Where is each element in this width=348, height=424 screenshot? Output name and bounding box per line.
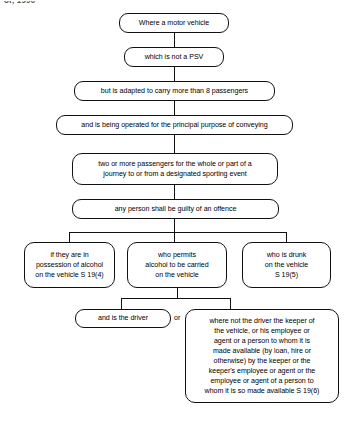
- connector-n5-to-n6: [174, 185, 175, 199]
- page-header-fragment: of, 1990: [4, 0, 35, 5]
- flowchart-canvas: of, 1990 Where a motor vehicle which is …: [0, 0, 348, 424]
- node-text: if they are in possession of alcohol on …: [29, 250, 110, 280]
- node-text: who is drunk on the vehicle S 19(5): [247, 250, 326, 280]
- connector-branch-left: [69, 232, 70, 243]
- node-text: where not the driver the keeper of the v…: [191, 316, 333, 397]
- connector-two-way-bus: [121, 298, 231, 299]
- connector-n8-stem: [177, 288, 178, 298]
- node-permits-alcohol-to-be-carried: who permits alcohol to be carried on the…: [127, 242, 227, 288]
- node-text-line-3: on the vehicle S 19(4): [29, 270, 110, 280]
- connector-three-way-bus: [69, 232, 287, 233]
- node-text: and is being operated for the principal …: [61, 120, 288, 130]
- node-text: two or more passengers for the whole or …: [77, 159, 273, 179]
- node-and-is-the-driver: and is the driver: [75, 309, 171, 328]
- node-two-or-more-passengers: two or more passengers for the whole or …: [72, 153, 278, 185]
- node-text-line-2: the vehicle, or his employee or: [191, 326, 333, 336]
- node-text: who permits alcohol to be carried on the…: [132, 250, 222, 280]
- node-text-line-1: where not the driver the keeper of: [191, 316, 333, 326]
- node-text-line-4: made available (by loan, hire or: [191, 346, 333, 356]
- node-text: which is not a PSV: [129, 52, 219, 62]
- connector-n1-to-n2: [174, 33, 175, 47]
- node-who-is-drunk-s19-5: who is drunk on the vehicle S 19(5): [242, 242, 331, 288]
- connector-n6-stem: [174, 219, 175, 232]
- node-text-line-5: otherwise) by the keeper or the: [191, 356, 333, 366]
- node-keeper-clause-s19-6: where not the driver the keeper of the v…: [185, 309, 339, 403]
- connector-n4-to-n5: [174, 135, 175, 153]
- node-possession-of-alcohol-s19-4: if they are in possession of alcohol on …: [24, 242, 115, 288]
- node-text-line-3: on the vehicle: [132, 270, 222, 280]
- connector-branch-driver: [121, 298, 122, 310]
- node-text-line-3: agent or a person to whom it is: [191, 336, 333, 346]
- node-text-line-1: if they are in: [29, 250, 110, 260]
- node-text-line-2: possession of alcohol: [29, 260, 110, 270]
- connector-branch-middle: [174, 232, 175, 243]
- node-where-a-motor-vehicle: Where a motor vehicle: [119, 13, 229, 33]
- node-text: any person shall be guilty of an offence: [77, 204, 274, 214]
- node-text-line-2: on the vehicle: [247, 260, 326, 270]
- node-text-line-1: who permits: [132, 250, 222, 260]
- node-operated-for-principal-purpose: and is being operated for the principal …: [56, 115, 293, 135]
- connector-n3-to-n4: [174, 101, 175, 115]
- connector-branch-right: [286, 232, 287, 243]
- node-text-line-3: S 19(5): [247, 270, 326, 280]
- node-guilty-of-an-offence: any person shall be guilty of an offence: [72, 199, 279, 219]
- node-text: and is the driver: [80, 313, 166, 323]
- node-text-line-6: keeper's employee or agent or the: [191, 366, 333, 376]
- node-text-line-2: journey to or from a designated sporting…: [77, 169, 273, 179]
- node-text-line-1: who is drunk: [247, 250, 326, 260]
- connector-or-label: or: [174, 315, 180, 322]
- connector-n2-to-n3: [174, 67, 175, 81]
- node-text-line-1: two or more passengers for the whole or …: [77, 159, 273, 169]
- connector-branch-keeper: [230, 298, 231, 310]
- node-adapted-to-carry: but is adapted to carry more than 8 pass…: [74, 81, 275, 101]
- node-text-line-2: alcohol to be carried: [132, 260, 222, 270]
- node-which-is-not-a-psv: which is not a PSV: [124, 47, 224, 67]
- node-text: Where a motor vehicle: [124, 18, 224, 28]
- node-text-line-8: whom it is so made available S 19(6): [191, 386, 333, 396]
- node-text: but is adapted to carry more than 8 pass…: [79, 86, 270, 96]
- node-text-line-7: employee or agent of a person to: [191, 376, 333, 386]
